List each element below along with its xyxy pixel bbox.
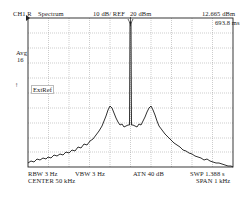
grid <box>28 18 233 167</box>
center-label: CENTER 50 kHz <box>28 177 75 184</box>
span-label: SPAN 1 kHz <box>196 177 230 184</box>
vbw-label: VBW 3 Hz <box>75 170 105 177</box>
swp-label: SWP 1.388 s <box>190 170 225 177</box>
atn-label: ATN 40 dB <box>133 170 164 177</box>
rbw-label: RBW 3 Hz <box>28 170 58 177</box>
ext-ref-label: ExtRef <box>31 85 54 94</box>
